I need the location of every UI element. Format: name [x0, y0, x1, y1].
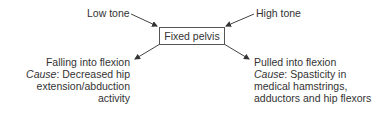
- cause-label: Cause: [26, 68, 56, 80]
- cause-text: medical hamstrings,: [254, 80, 371, 92]
- cause-text: adductors and hip flexors: [254, 92, 371, 104]
- arrow-low-tone-to-box: [131, 14, 157, 26]
- outcome-title: Pulled into flexion: [254, 56, 371, 68]
- cause-label: Cause: [254, 68, 284, 80]
- cause-line: Cause: Spasticity in: [254, 68, 371, 80]
- high-tone-label: High tone: [256, 7, 301, 19]
- falling-into-flexion-outcome: Falling into flexion Cause: Decreased hi…: [26, 56, 130, 104]
- low-tone-label: Low tone: [87, 7, 130, 19]
- cause-line: Cause: Decreased hip: [26, 68, 130, 80]
- cause-text: Decreased hip: [62, 68, 130, 80]
- fixed-pelvis-label: Fixed pelvis: [164, 30, 219, 42]
- arrow-box-to-falling: [135, 44, 160, 59]
- pulled-into-flexion-outcome: Pulled into flexion Cause: Spasticity in…: [254, 56, 371, 104]
- arrow-high-tone-to-box: [226, 14, 254, 26]
- arrow-box-to-pulled: [224, 44, 249, 59]
- cause-text: Spasticity in: [290, 68, 346, 80]
- cause-text: extension/abduction: [26, 80, 130, 92]
- cause-text: activity: [26, 92, 130, 104]
- fixed-pelvis-box: Fixed pelvis: [159, 27, 225, 45]
- outcome-title: Falling into flexion: [26, 56, 130, 68]
